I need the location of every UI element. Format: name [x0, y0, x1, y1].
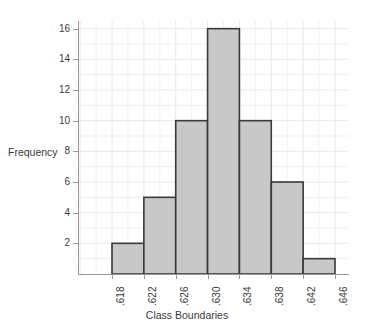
y-tick-label: 10	[59, 116, 70, 126]
x-axis-line	[78, 274, 349, 275]
y-tick-label: 16	[59, 24, 70, 34]
histogram-bar	[208, 29, 240, 274]
x-tick-mark	[335, 275, 336, 279]
x-tick-label: .618	[116, 287, 126, 306]
x-tick-mark	[208, 275, 209, 279]
x-tick-mark	[112, 275, 113, 279]
y-tick-label: 4	[64, 208, 70, 218]
y-axis-line	[78, 21, 79, 275]
x-tick-mark	[271, 275, 272, 279]
histogram-bar	[144, 197, 176, 274]
y-tick-mark	[73, 151, 78, 152]
y-tick-mark	[73, 213, 78, 214]
y-tick-label: 2	[64, 238, 70, 248]
x-tick-mark	[239, 275, 240, 279]
y-tick-mark	[73, 59, 78, 60]
x-tick-mark	[303, 275, 304, 279]
y-tick-label: 12	[59, 85, 70, 95]
x-tick-label: .646	[339, 287, 349, 306]
histogram-bar	[271, 182, 303, 274]
y-tick-label: 6	[64, 177, 70, 187]
plot-area	[78, 21, 348, 274]
y-tick-mark	[73, 243, 78, 244]
x-tick-label: .638	[275, 287, 285, 306]
x-axis-title: Class Boundaries	[0, 310, 374, 321]
x-tick-label: .622	[148, 287, 158, 306]
x-tick-mark	[144, 275, 145, 279]
x-tick-mark	[176, 275, 177, 279]
y-tick-label: 8	[64, 146, 70, 156]
histogram-bar	[239, 121, 271, 274]
x-tick-label: .630	[212, 287, 222, 306]
y-tick-mark	[73, 182, 78, 183]
y-tick-mark	[73, 121, 78, 122]
x-tick-label: .642	[307, 287, 317, 306]
x-tick-label: .634	[243, 287, 253, 306]
histogram-bar	[176, 121, 208, 274]
histogram-bar	[112, 243, 144, 274]
x-tick-label: .626	[180, 287, 190, 306]
y-tick-mark	[73, 90, 78, 91]
histogram-chart: 246810121416 .618.622.626.630.634.638.64…	[0, 0, 374, 330]
y-axis-title: Frequency	[8, 147, 58, 158]
y-tick-mark	[73, 29, 78, 30]
histogram-bar	[303, 259, 335, 274]
y-tick-label: 14	[59, 54, 70, 64]
histogram-bars	[78, 21, 348, 274]
